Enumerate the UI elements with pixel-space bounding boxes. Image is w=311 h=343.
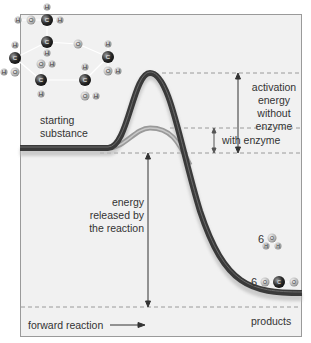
svg-text:H: H	[58, 17, 62, 23]
glucose-molecule: O O O O O O H H H H H H H H H H H H CCC …	[1, 4, 122, 101]
label-line: activation energy	[240, 81, 308, 107]
water-coefficient: 6	[258, 233, 264, 246]
svg-text:H: H	[45, 50, 49, 56]
svg-text:O: O	[13, 69, 18, 75]
svg-text:O: O	[76, 41, 81, 47]
svg-text:C: C	[45, 39, 50, 45]
svg-text:O: O	[270, 235, 274, 241]
svg-text:O: O	[106, 68, 111, 74]
svg-text:O: O	[39, 61, 44, 67]
svg-text:C: C	[39, 77, 44, 83]
water-molecule: O H H	[263, 234, 282, 250]
forward-reaction-arrow	[110, 323, 145, 328]
energy-diagram: O O O O O O H H H H H H H H H H H H CCC …	[0, 0, 311, 343]
with-enzyme-arrow	[212, 128, 216, 153]
label-line: energy	[70, 196, 144, 209]
svg-text:H: H	[16, 17, 20, 23]
label-line: without enzyme	[240, 107, 308, 133]
svg-text:O: O	[292, 279, 296, 285]
svg-text:O: O	[83, 93, 88, 99]
activation-without-label: activation energy without enzyme	[240, 81, 308, 133]
svg-text:H: H	[50, 61, 54, 67]
svg-text:C: C	[277, 279, 281, 285]
forward-reaction-label: forward reaction	[28, 319, 103, 332]
svg-text:O: O	[29, 17, 34, 23]
svg-text:H: H	[264, 243, 268, 249]
co2-molecule: O C O	[261, 276, 299, 288]
co2-coefficient: 6	[251, 276, 257, 289]
svg-text:H: H	[83, 64, 87, 70]
svg-text:C: C	[45, 17, 50, 23]
svg-text:H: H	[2, 69, 6, 75]
svg-text:H: H	[106, 41, 110, 47]
energy-released-label: energy released by the reaction	[70, 196, 144, 235]
label-line: substance	[40, 127, 88, 140]
starting-substance-label: starting substance	[40, 114, 88, 140]
energy-released-arrow	[146, 153, 151, 307]
svg-text:C: C	[13, 55, 18, 61]
svg-text:O: O	[263, 279, 267, 285]
label-line: the reaction	[70, 222, 144, 235]
svg-text:H: H	[39, 91, 43, 97]
with-enzyme-label: with enzyme	[222, 134, 280, 147]
svg-text:C: C	[83, 77, 88, 83]
svg-text:C: C	[106, 54, 111, 60]
label-line: released by	[70, 209, 144, 222]
svg-text:H: H	[45, 4, 49, 10]
svg-text:H: H	[116, 68, 120, 74]
products-label: products	[251, 315, 291, 328]
svg-text:H: H	[276, 243, 280, 249]
svg-text:H: H	[94, 93, 98, 99]
label-line: starting	[40, 114, 88, 127]
svg-text:H: H	[13, 42, 17, 48]
